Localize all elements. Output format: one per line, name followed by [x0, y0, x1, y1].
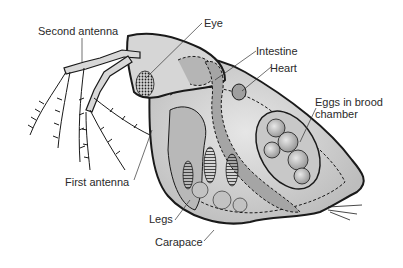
- label-eggs-line2: chamber: [315, 108, 358, 120]
- eye-shape: [136, 71, 154, 97]
- second-antenna-shape: [64, 50, 140, 112]
- label-legs: Legs: [149, 213, 173, 225]
- label-heart: Heart: [270, 62, 297, 74]
- daphnia-diagram: [0, 0, 403, 268]
- tail-bristles: [328, 205, 362, 220]
- label-eye: Eye: [204, 17, 223, 29]
- label-carapace: Carapace: [155, 236, 203, 248]
- label-second-antenna: Second antenna: [38, 25, 118, 37]
- heart-shape: [232, 84, 246, 100]
- label-first-antenna: First antenna: [65, 176, 129, 188]
- label-eggs-line1: Eggs in brood: [315, 96, 383, 108]
- label-intestine: Intestine: [256, 45, 298, 57]
